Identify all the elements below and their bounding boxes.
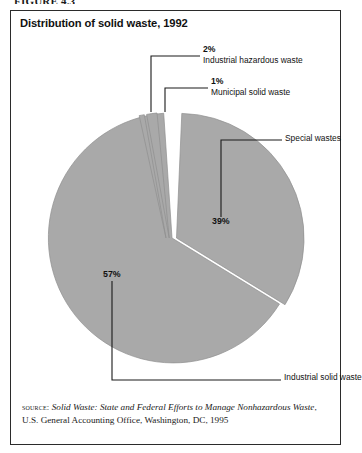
- slice-percent-special-wastes: 39%: [212, 216, 230, 226]
- callout-label: Municipal solid waste: [211, 87, 290, 98]
- source-label: source:: [22, 402, 49, 412]
- callout-industrial-hazardous-waste: 2% Industrial hazardous waste: [203, 44, 303, 65]
- callout-label: Industrial hazardous waste: [203, 55, 303, 66]
- callout-label: Special wastes: [285, 133, 341, 144]
- leader-line-municipal-solid-waste: [165, 88, 208, 112]
- callout-label: Industrial solid waste: [284, 372, 362, 383]
- callout-percent: 2%: [203, 44, 303, 55]
- callout-special-wastes: Special wastes: [285, 133, 341, 144]
- callout-municipal-solid-waste: 1% Municipal solid waste: [211, 76, 290, 97]
- source-note: source: Solid Waste: State and Federal E…: [22, 401, 322, 427]
- leader-line-industrial-hazardous-waste: [151, 56, 200, 112]
- callout-percent: 1%: [211, 76, 290, 87]
- source-title: Solid Waste: State and Federal Efforts t…: [52, 402, 315, 412]
- callout-industrial-solid-waste: Industrial solid waste: [284, 372, 362, 383]
- slice-percent-industrial-solid-waste: 57%: [103, 269, 121, 279]
